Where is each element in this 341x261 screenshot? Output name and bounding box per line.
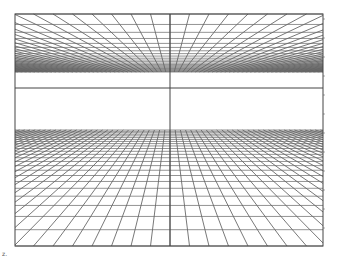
floor-grid	[15, 130, 323, 246]
ceiling-grid	[15, 14, 323, 72]
corner-label: z.	[2, 250, 7, 257]
perspective-grid-figure	[0, 0, 341, 261]
